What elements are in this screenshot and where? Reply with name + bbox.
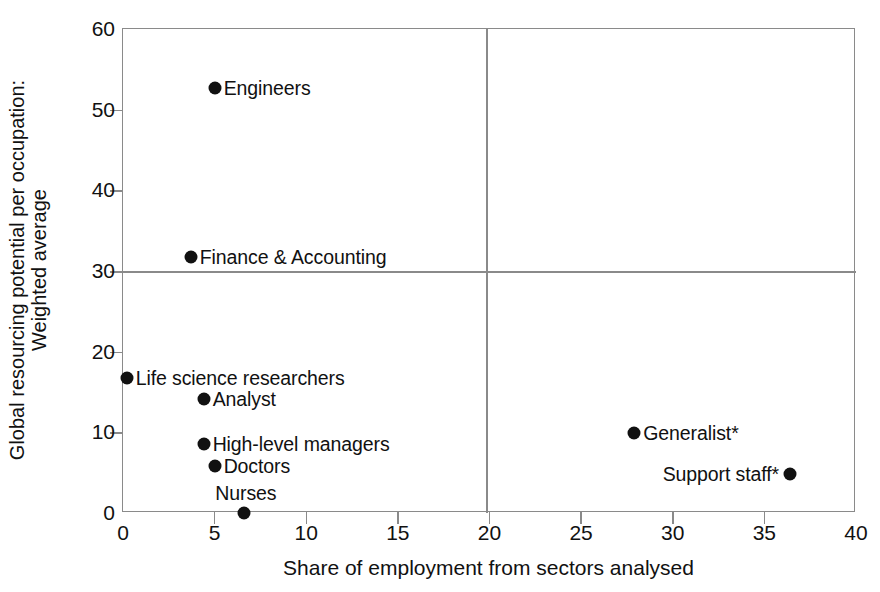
y-tick-label-10: 10	[92, 420, 115, 444]
y-axis-title-line-0: Global resourcing potential per occupati…	[6, 28, 28, 512]
point-label-high-level-managers: High-level managers	[213, 433, 390, 456]
data-point-analyst[interactable]	[197, 393, 210, 406]
data-point-finance-accounting[interactable]	[184, 251, 197, 264]
x-tick-label-15: 15	[386, 521, 409, 545]
data-point-generalist[interactable]	[628, 427, 641, 440]
plot-area: 0102030405060 0510152025303540 Engineers…	[122, 28, 855, 512]
y-axis-title-line-1: Weighted average	[28, 28, 50, 512]
x-tick-label-40: 40	[844, 521, 867, 545]
point-label-life-science-researchers: Life science researchers	[136, 367, 345, 390]
scatter-chart: 0102030405060 0510152025303540 Engineers…	[0, 0, 880, 592]
point-label-nurses: Nurses	[215, 482, 276, 505]
data-point-nurses[interactable]	[237, 507, 250, 520]
x-tick-label-0: 0	[117, 521, 129, 545]
x-tick-label-25: 25	[569, 521, 592, 545]
y-tick-label-50: 50	[92, 98, 115, 122]
point-label-support-staff: Support staff*	[663, 463, 779, 486]
y-tick-label-40: 40	[92, 178, 115, 202]
x-axis-title: Share of employment from sectors analyse…	[122, 556, 855, 580]
x-tick-label-10: 10	[295, 521, 318, 545]
x-tick-label-20: 20	[478, 521, 501, 545]
x-tick-label-35: 35	[753, 521, 776, 545]
point-label-doctors: Doctors	[224, 455, 290, 478]
data-point-high-level-managers[interactable]	[197, 438, 210, 451]
y-tick-label-30: 30	[92, 259, 115, 283]
point-label-finance-accounting: Finance & Accounting	[200, 246, 387, 269]
point-label-analyst: Analyst	[213, 388, 276, 411]
y-tick-label-0: 0	[103, 501, 115, 525]
point-label-generalist: Generalist*	[643, 422, 738, 445]
point-label-engineers: Engineers	[224, 76, 311, 99]
quadrant-horizontal-line	[123, 271, 856, 273]
data-point-engineers[interactable]	[208, 81, 221, 94]
x-tick-label-5: 5	[209, 521, 221, 545]
data-point-life-science-researchers[interactable]	[120, 372, 133, 385]
x-tick-label-30: 30	[661, 521, 684, 545]
y-tick-label-60: 60	[92, 17, 115, 41]
y-tick-label-20: 20	[92, 340, 115, 364]
data-point-support-staff[interactable]	[784, 468, 797, 481]
y-axis-title: Global resourcing potential per occupati…	[0, 28, 56, 512]
data-point-doctors[interactable]	[208, 460, 221, 473]
